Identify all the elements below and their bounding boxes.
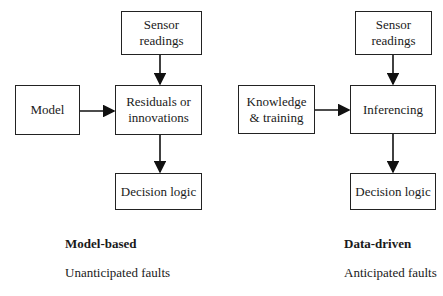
model-based-title: Model-based: [65, 236, 137, 252]
right-decision-logic-box: Decision logic: [350, 173, 436, 210]
knowledge-label: Knowledge & training: [243, 94, 311, 126]
inferencing-label: Inferencing: [363, 102, 423, 118]
left-decision-logic-box: Decision logic: [115, 173, 202, 210]
anticipated-faults-label: Anticipated faults: [344, 265, 437, 281]
knowledge-training-box: Knowledge & training: [238, 85, 315, 134]
model-box: Model: [15, 85, 80, 135]
model-label: Model: [31, 102, 65, 118]
left-decision-label: Decision logic: [121, 184, 196, 200]
residuals-label: Residuals or innovations: [121, 94, 196, 126]
left-sensor-label: Sensor readings: [132, 17, 192, 49]
residuals-box: Residuals or innovations: [115, 85, 202, 135]
data-driven-title: Data-driven: [344, 236, 411, 252]
inferencing-box: Inferencing: [350, 85, 436, 134]
right-sensor-readings-box: Sensor readings: [355, 11, 432, 55]
left-sensor-readings-box: Sensor readings: [121, 11, 202, 55]
right-sensor-label: Sensor readings: [364, 17, 424, 49]
unanticipated-faults-label: Unanticipated faults: [65, 265, 170, 281]
right-decision-label: Decision logic: [355, 184, 430, 200]
